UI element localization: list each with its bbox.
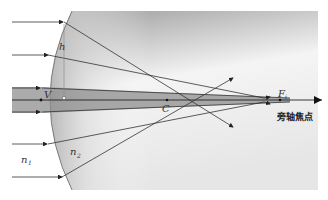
label-h: h	[59, 41, 65, 52]
label-n1-sub: 1	[28, 159, 32, 166]
vertex-dot	[40, 99, 43, 102]
center-dot	[166, 99, 169, 102]
label-n2: n	[70, 146, 76, 157]
height-base-dot	[62, 96, 65, 99]
focus-dot	[279, 99, 282, 102]
label-f-sub: i	[285, 93, 287, 100]
label-n2-sub: 2	[76, 152, 81, 159]
aberration-diagram: h V C F i n 1 n 2 旁轴焦点	[0, 0, 328, 200]
label-paraxial-focus: 旁轴焦点	[276, 111, 313, 122]
label-n1: n	[21, 154, 27, 165]
label-c: C	[162, 103, 170, 114]
